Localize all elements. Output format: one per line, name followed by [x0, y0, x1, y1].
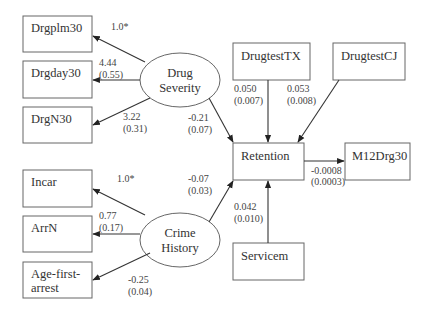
latent-crime-history: Crime History [140, 213, 220, 267]
latent-label: History [161, 241, 199, 255]
indicator-label: DrgN30 [31, 112, 72, 126]
node-label: Servicem [241, 249, 288, 263]
path-coef: 0.042 [234, 201, 257, 212]
path-se: (0.0003) [311, 176, 345, 188]
loading-se: (0.55) [99, 69, 123, 81]
node-label: DrugtestCJ [341, 49, 397, 63]
sem-path-diagram: Drgplm30 Drgday30 DrgN30 Drug Severity 1… [0, 0, 430, 312]
path-crime-retention [209, 181, 233, 222]
latent-drug-severity: Drug Severity [140, 53, 220, 107]
loading-value: 3.22 [123, 111, 141, 122]
path-coef: -0.07 [188, 173, 209, 184]
latent-label: Drug [167, 66, 193, 80]
node-servicem: Servicem [233, 243, 304, 280]
node-label: DrugtestTX [241, 49, 301, 63]
node-retention: Retention [233, 143, 304, 180]
path-drug-retention [209, 98, 233, 142]
indicator-arrn: ArrN [23, 216, 92, 252]
indicator-label: Age-first- [31, 267, 80, 281]
path-se: (0.07) [188, 124, 212, 136]
loading-value: 4.44 [99, 57, 117, 68]
indicator-incar: Incar [23, 170, 92, 207]
loading-value: 1.0* [111, 21, 129, 32]
latent-label: Crime [164, 226, 196, 240]
indicator-label: Drgday30 [31, 66, 81, 80]
indicator-drgplm30: Drgplm30 [23, 16, 92, 52]
path-se: (0.03) [188, 185, 212, 197]
loading-se: (0.31) [123, 123, 147, 135]
indicator-label: Incar [31, 175, 58, 189]
loading-se: (0.17) [99, 222, 123, 234]
path-se: (0.008) [287, 95, 316, 107]
path-coef: 0.053 [287, 83, 310, 94]
path-drug-drgn30 [93, 98, 150, 125]
path-se: (0.010) [234, 213, 263, 225]
indicator-age-first-arrest: Age-first- arrest [23, 262, 92, 298]
loading-se: (0.04) [128, 286, 152, 298]
loading-value: -0.25 [128, 274, 149, 285]
indicator-drgday30: Drgday30 [23, 61, 92, 98]
node-m12drg30: M12Drg30 [345, 143, 410, 180]
loading-value: 1.0* [117, 173, 135, 184]
path-coef: -0.21 [188, 112, 209, 123]
latent-label: Severity [159, 81, 201, 95]
path-coef: -0.0008 [311, 165, 342, 176]
node-label: M12Drg30 [352, 149, 407, 163]
node-label: Retention [241, 149, 290, 163]
indicator-drgn30: DrgN30 [23, 107, 92, 143]
path-se: (0.007) [234, 95, 263, 107]
node-drugtesttx: DrugtestTX [233, 43, 310, 80]
indicator-label: arrest [31, 281, 59, 295]
path-coef: 0.050 [234, 83, 257, 94]
indicator-label: ArrN [31, 221, 57, 235]
indicator-label: Drgplm30 [31, 21, 82, 35]
node-drugtestcj: DrugtestCJ [333, 43, 405, 80]
loading-value: 0.77 [99, 210, 117, 221]
